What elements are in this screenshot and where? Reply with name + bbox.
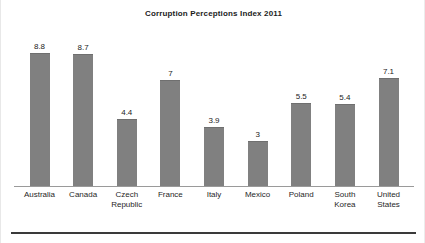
x-label-canada: Canada <box>62 190 105 210</box>
bar-value-label: 8.7 <box>78 43 89 52</box>
bar-italy[interactable] <box>204 127 224 186</box>
bar-value-label: 4.4 <box>121 108 132 117</box>
bar-group-czech-republic: 4.4 <box>105 28 148 186</box>
bar-value-label: 5.4 <box>339 93 350 102</box>
bar-group-poland: 5.5 <box>280 28 323 186</box>
x-label-line: Italy <box>193 190 236 200</box>
bar-group-mexico: 3 <box>236 28 279 186</box>
bar-group-south-korea: 5.4 <box>323 28 366 186</box>
bar-value-label: 7.1 <box>383 67 394 76</box>
x-label-line: Republic <box>105 200 148 210</box>
x-label-line: Korea <box>323 200 366 210</box>
bar-value-label: 5.5 <box>296 92 307 101</box>
bar-value-label: 8.8 <box>34 42 45 51</box>
x-label-line: Canada <box>62 190 105 200</box>
bar-group-canada: 8.7 <box>62 28 105 186</box>
x-label-line: Australia <box>18 190 61 200</box>
bar-australia[interactable] <box>30 53 50 186</box>
x-label-italy: Italy <box>193 190 236 210</box>
x-label-line: United <box>367 190 410 200</box>
x-label-line: Poland <box>280 190 323 200</box>
x-label-line: South <box>323 190 366 200</box>
x-label-france: France <box>149 190 192 210</box>
bar-mexico[interactable] <box>248 141 268 186</box>
x-axis-line <box>14 186 414 187</box>
bar-group-france: 7 <box>149 28 192 186</box>
x-label-line: Czech <box>105 190 148 200</box>
x-label-mexico: Mexico <box>236 190 279 210</box>
bar-group-united-states: 7.1 <box>367 28 410 186</box>
x-axis-category-labels: Australia Canada Czech Republic France I… <box>18 190 410 210</box>
bar-canada[interactable] <box>73 54 93 186</box>
bar-value-label: 3.9 <box>208 116 219 125</box>
bar-series: 8.8 8.7 4.4 7 3.9 3 <box>18 28 410 186</box>
bar-czech-republic[interactable] <box>117 119 137 186</box>
bar-france[interactable] <box>160 80 180 186</box>
x-label-line: States <box>367 200 410 210</box>
bar-group-australia: 8.8 <box>18 28 61 186</box>
x-label-south-korea: South Korea <box>323 190 366 210</box>
x-label-line: Mexico <box>236 190 279 200</box>
bar-group-italy: 3.9 <box>193 28 236 186</box>
bar-value-label: 3 <box>255 130 259 139</box>
x-label-australia: Australia <box>18 190 61 210</box>
chart-title: Corruption Perceptions Index 2011 <box>1 9 425 18</box>
x-label-line: France <box>149 190 192 200</box>
bar-united-states[interactable] <box>379 78 399 186</box>
bar-south-korea[interactable] <box>335 104 355 186</box>
plot-area: 8.8 8.7 4.4 7 3.9 3 <box>18 28 410 186</box>
bottom-divider-rule <box>11 232 416 234</box>
x-label-czech-republic: Czech Republic <box>105 190 148 210</box>
x-label-united-states: United States <box>367 190 410 210</box>
x-label-poland: Poland <box>280 190 323 210</box>
chart-figure: Corruption Perceptions Index 2011 8.8 8.… <box>0 0 425 243</box>
bar-value-label: 7 <box>168 69 172 78</box>
bar-poland[interactable] <box>291 103 311 186</box>
